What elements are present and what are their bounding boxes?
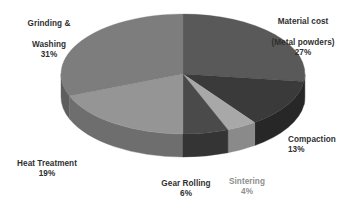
slice-label-line1: Material cost [278,17,329,26]
slice-label-heat-treatment: Heat Treatment 19% [4,148,90,190]
slice-percent: 19% [4,169,90,180]
slice-label-line1: Sintering [229,177,265,186]
slice-label-sintering: Sintering 4% [216,166,278,208]
slice-label-material-cost: Material cost (Metal powders) 27% [247,6,359,69]
slice-label-line1: Heat Treatment [17,159,77,168]
slice-percent: 4% [216,187,278,198]
slice-percent: 31% [6,50,92,61]
slice-label-line1: Gear Rolling [161,179,210,188]
slice-percent: 13% [288,145,362,156]
slice-label-line1: Compaction [288,135,336,144]
pie-chart-figure: Grinding & Washing 31% Material cost (Me… [0,0,362,210]
slice-percent: 6% [148,189,224,200]
slice-label-line1: Grinding & [28,19,71,28]
slice-label-line2: Washing [32,40,66,49]
slice-label-grinding-washing: Grinding & Washing 31% [6,8,92,71]
slice-label-line2: (Metal powders) [271,38,334,47]
slice-percent: 27% [247,48,359,59]
slice-label-gear-rolling: Gear Rolling 6% [148,168,224,210]
slice-label-compaction: Compaction 13% [288,124,362,166]
